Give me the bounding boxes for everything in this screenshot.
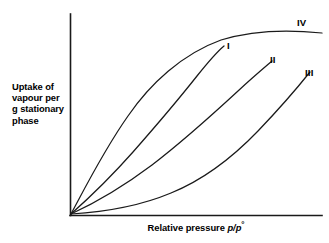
curve-label-type-i: I	[227, 41, 230, 51]
curve-type-iv	[71, 31, 322, 214]
curve-label-type-ii: II	[270, 55, 276, 65]
y-axis-title: Uptake of vapour per g stationary phase	[12, 81, 74, 126]
curve-type-i	[71, 46, 224, 214]
x-axis-degree-symbol: °	[241, 220, 244, 229]
x-axis-title-text: Relative pressure	[148, 222, 228, 233]
isotherm-figure: Uptake of vapour per g stationary phase …	[0, 0, 329, 243]
curve-type-ii	[71, 61, 272, 214]
curve-label-type-iii: III	[305, 68, 314, 78]
curve-type-iii	[71, 72, 310, 214]
x-axis-title: Relative pressure p/p°	[70, 222, 322, 233]
curve-label-type-iv: IV	[297, 18, 306, 28]
